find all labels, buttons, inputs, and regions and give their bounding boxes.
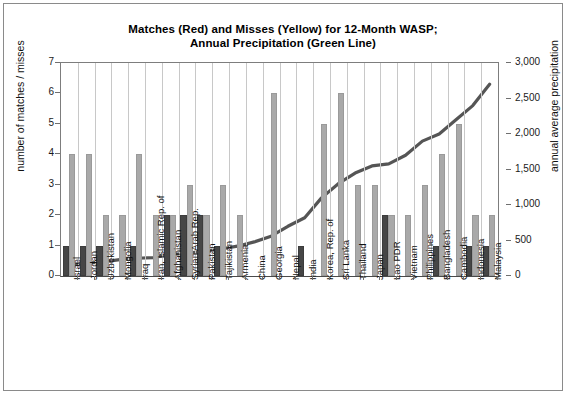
x-tick-mark	[228, 276, 229, 280]
y-tick-label-left: 5	[48, 118, 54, 128]
gridline-vertical	[313, 63, 314, 276]
bar-misses	[136, 154, 142, 276]
y-tick-label-right: 3,000	[515, 57, 540, 67]
x-axis-category-label: Tajikistan	[224, 241, 233, 280]
x-tick-mark	[430, 276, 431, 280]
x-tick-mark	[413, 276, 414, 280]
x-axis-category-label: Cambodia	[459, 237, 468, 280]
x-tick-mark	[110, 276, 111, 280]
chart-title-line-2: Annual Precipitation (Green Line)	[4, 36, 562, 50]
y-axis-left: 01234567	[24, 62, 54, 275]
x-tick-mark	[396, 276, 397, 280]
x-axis-category-label: Pakistan	[207, 244, 216, 280]
y-tick-label-right: 1,500	[515, 164, 540, 174]
x-tick-mark	[497, 276, 498, 280]
x-axis-category-label: Uzbekistan	[106, 233, 115, 280]
gridline-vertical	[78, 63, 79, 276]
gridline-vertical	[280, 63, 281, 276]
x-axis-category-label: Indonesia	[476, 239, 485, 280]
x-tick-mark	[295, 276, 296, 280]
x-tick-mark	[463, 276, 464, 280]
y-tick-label-right: 2,000	[515, 128, 540, 138]
y-tick-mark-right	[506, 275, 511, 276]
x-tick-mark	[77, 276, 78, 280]
x-tick-mark	[279, 276, 280, 280]
x-axis-category-label: Georgia	[274, 246, 283, 280]
y-tick-mark-right	[506, 133, 511, 134]
x-tick-mark	[94, 276, 95, 280]
y-tick-label-left: 0	[48, 270, 54, 280]
y-tick-label-right: 2,500	[515, 93, 540, 103]
gridline-vertical	[263, 63, 264, 276]
x-tick-mark	[178, 276, 179, 280]
x-axis-category-label: Thailand	[358, 244, 367, 280]
x-tick-mark	[245, 276, 246, 280]
chart-frame: Matches (Red) and Misses (Yellow) for 12…	[3, 3, 563, 391]
gridline-vertical	[296, 63, 297, 276]
y-tick-label-left: 3	[48, 179, 54, 189]
x-tick-mark	[211, 276, 212, 280]
chart-title-line-1: Matches (Red) and Misses (Yellow) for 12…	[4, 22, 562, 36]
x-tick-mark	[447, 276, 448, 280]
x-tick-mark	[194, 276, 195, 280]
y-tick-mark-right	[506, 98, 511, 99]
bar-matches	[63, 246, 69, 276]
x-axis-category-label: Iran, Islamic Rep. of	[156, 196, 165, 280]
x-axis-category-label: Sri Lanka	[341, 240, 350, 280]
x-tick-mark	[480, 276, 481, 280]
x-tick-mark	[363, 276, 364, 280]
x-tick-mark	[161, 276, 162, 280]
x-axis-category-label: Syrian Arab Rep.	[190, 208, 199, 280]
y-tick-mark-right	[506, 62, 511, 63]
x-axis-category-label: Korea, Rep. of	[325, 219, 334, 280]
y-axis-left-title: number of matches / misses	[14, 26, 26, 186]
x-axis-category-label: Malaysia	[493, 243, 502, 281]
x-tick-mark	[329, 276, 330, 280]
x-tick-mark	[127, 276, 128, 280]
x-tick-mark	[144, 276, 145, 280]
y-tick-label-right: 500	[515, 235, 532, 245]
y-tick-label-left: 1	[48, 240, 54, 250]
x-axis-category-label: Vietnam	[409, 245, 418, 280]
x-tick-mark	[346, 276, 347, 280]
x-axis-category-label: Afghanistan	[173, 230, 182, 280]
y-tick-mark-right	[506, 204, 511, 205]
y-tick-label-left: 7	[48, 57, 54, 67]
x-axis-category-label: Armenia	[240, 245, 249, 280]
y-axis-right-title: annual average precipitation	[548, 16, 560, 196]
gridline-vertical	[95, 63, 96, 276]
x-axis-category-label: Philippines	[425, 234, 434, 280]
gridline-vertical	[145, 63, 146, 276]
x-tick-mark	[379, 276, 380, 280]
y-tick-label-left: 2	[48, 209, 54, 219]
y-tick-label-left: 6	[48, 87, 54, 97]
y-tick-mark-right	[506, 240, 511, 241]
x-tick-mark	[262, 276, 263, 280]
chart-title: Matches (Red) and Misses (Yellow) for 12…	[4, 22, 562, 50]
y-axis-right: 05001,0001,5002,0002,5003,000	[506, 62, 546, 275]
x-axis-category-label: Lao PDR	[392, 241, 401, 280]
y-tick-mark-right	[506, 169, 511, 170]
y-tick-label-right: 1,000	[515, 199, 540, 209]
y-tick-label-left: 4	[48, 148, 54, 158]
x-axis-category-label: Mongolia	[123, 241, 132, 280]
x-tick-mark	[312, 276, 313, 280]
y-tick-label-right: 0	[515, 270, 521, 280]
x-axis-category-label: Bangladesh	[442, 230, 451, 280]
